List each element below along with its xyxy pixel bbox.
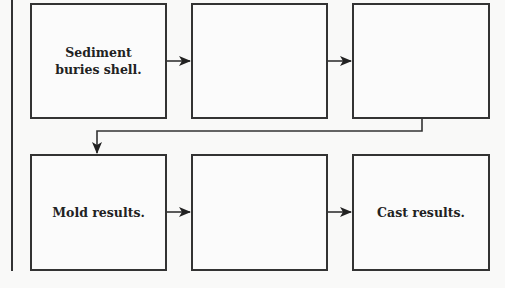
arrow-elbow-down-icon bbox=[97, 119, 422, 153]
connector-arrows bbox=[0, 0, 505, 288]
